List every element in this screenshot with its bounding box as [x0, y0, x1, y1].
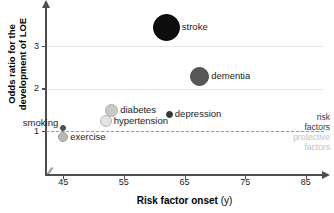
y-tick-label: 2	[25, 84, 39, 93]
y-axis-arrow-icon	[42, 0, 50, 8]
data-point-bubble-depression[interactable]	[166, 111, 173, 118]
data-point-label-dementia: dementia	[211, 71, 250, 81]
x-tick-label: 75	[232, 178, 258, 187]
data-point-bubble-stroke[interactable]	[153, 14, 180, 41]
data-point-bubble-exercise[interactable]	[58, 132, 68, 142]
x-tick-label: 55	[111, 178, 137, 187]
data-point-bubble-dementia[interactable]	[190, 67, 209, 86]
x-tick-label: 85	[293, 178, 319, 187]
x-axis-title-text: Risk factor onset	[137, 195, 218, 206]
y-tick-label: 3	[25, 42, 39, 51]
gridline	[46, 46, 324, 47]
x-tick-label: 65	[172, 178, 198, 187]
data-point-label-stroke: stroke	[182, 22, 208, 32]
y-axis-line	[45, 6, 47, 175]
data-point-bubble-hypertension[interactable]	[100, 115, 112, 127]
x-tick-label: 45	[50, 178, 76, 187]
y-axis-title-text: Odds ratio for the development of LOE	[6, 18, 29, 110]
data-point-label-exercise: exercise	[70, 132, 105, 142]
data-point-label-smoking: smoking	[23, 118, 58, 128]
risk-factors-annotation: risk factors	[284, 113, 330, 132]
odds-ratio-scatter-chart: Odds ratio for the development of LOE //…	[0, 0, 334, 213]
x-axis-title: Risk factor onset (y)	[45, 195, 324, 207]
data-point-label-hypertension: hypertension	[114, 116, 168, 126]
y-tick-mark	[42, 46, 46, 47]
protective-factors-annotation: protective factors	[284, 133, 330, 152]
x-axis-title-unit: (y)	[221, 195, 233, 206]
y-axis-title: Odds ratio for the development of LOE	[0, 0, 34, 129]
gridline	[46, 89, 324, 90]
data-point-label-depression: depression	[175, 109, 221, 119]
y-tick-mark	[42, 88, 46, 89]
data-point-bubble-smoking[interactable]	[60, 125, 66, 131]
x-axis-arrow-icon	[322, 171, 330, 179]
y-tick-label: 1	[25, 127, 39, 136]
data-point-label-diabetes: diabetes	[120, 105, 156, 115]
